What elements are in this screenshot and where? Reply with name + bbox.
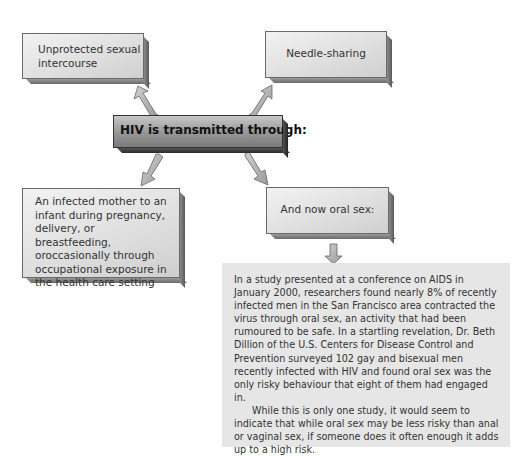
arrow-to-needle-icon [249, 85, 272, 117]
node-line: intercourse [38, 57, 140, 71]
node-label: Needle-sharing [266, 47, 386, 61]
panel-paragraph-2: While this is only one study, it would s… [234, 404, 502, 456]
node-mother-to-infant: An infected mother to an infant during p… [22, 188, 180, 278]
node-label: And now oral sex: [267, 203, 388, 217]
center-node: HIV is transmitted through: [113, 115, 283, 148]
arrow-to-panel-icon [325, 244, 342, 264]
node-needle-sharing: Needle-sharing [265, 31, 387, 78]
node-line: occupational exposure in [35, 263, 173, 277]
node-line: the health care setting [35, 276, 173, 290]
panel-paragraph-1: In a study presented at a conference on … [234, 273, 502, 404]
node-line: delivery, or breastfeeding, [35, 222, 173, 249]
arrow-to-mother-icon [141, 154, 163, 186]
study-info-panel: In a study presented at a conference on … [222, 263, 510, 447]
arrow-to-unprotected-icon [134, 86, 158, 118]
center-label: HIV is transmitted through: [120, 124, 307, 138]
node-unprotected-intercourse: Unprotected sexual intercourse [22, 33, 144, 79]
node-oral-sex: And now oral sex: [266, 187, 389, 234]
arrow-to-oral-icon [245, 152, 268, 185]
node-line: Unprotected sexual [38, 43, 140, 57]
node-line: infant during pregnancy, [35, 209, 173, 223]
node-line: An infected mother to an [35, 195, 173, 209]
node-line: oroccasionally through [35, 249, 173, 263]
